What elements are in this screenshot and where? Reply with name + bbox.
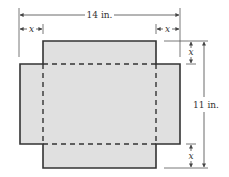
cut-top-label: x [188, 47, 193, 57]
box-net-diagram: 14 in. x x x x 11 in. [0, 0, 229, 177]
cut-left-label: x [29, 24, 34, 34]
cut-bottom-label: x [188, 151, 193, 161]
width-label: 14 in. [87, 10, 113, 20]
height-label: 11 in. [193, 100, 219, 110]
cut-right-label: x [165, 24, 170, 34]
